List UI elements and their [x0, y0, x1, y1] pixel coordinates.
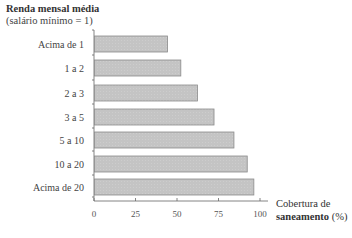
x-tick-label: 50	[173, 209, 183, 219]
category-label: 5 a 10	[60, 135, 84, 146]
bar	[95, 36, 168, 52]
category-label: 2 a 3	[65, 88, 84, 99]
x-axis-title: Cobertura de saneamento (%)	[276, 197, 347, 223]
category-label: 3 a 5	[65, 112, 84, 123]
x-tick-label: 25	[131, 209, 141, 219]
category-label: Acima de 1	[38, 39, 84, 50]
x-tick-label: 0	[92, 209, 97, 219]
bar	[95, 132, 234, 148]
x-axis-title-line1: Cobertura de	[276, 197, 347, 210]
x-tick-label: 75	[214, 209, 224, 219]
category-label: Acima de 20	[33, 182, 84, 193]
x-axis-title-bold: saneamento	[276, 211, 329, 222]
bar	[95, 109, 215, 125]
bar	[95, 85, 198, 101]
bar	[95, 179, 254, 195]
bar	[95, 156, 248, 172]
category-label: 10 a 20	[55, 159, 84, 170]
category-label: 1 a 2	[65, 63, 84, 74]
x-tick-label: 100	[253, 209, 267, 219]
bar	[95, 60, 181, 76]
x-axis-title-unit: (%)	[329, 211, 347, 222]
